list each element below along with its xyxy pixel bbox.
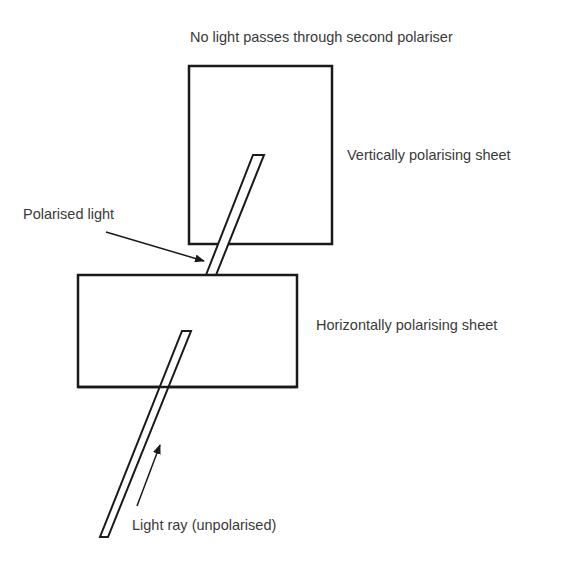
- polarisation-diagram: [0, 0, 578, 570]
- horizontal-sheet-label: Horizontally polarising sheet: [316, 318, 497, 333]
- light-ray-label: Light ray (unpolarised): [132, 518, 276, 533]
- vertical-sheet-label: Vertically polarising sheet: [347, 148, 511, 163]
- polarised-light-ray: [206, 155, 264, 275]
- polarised-light-label: Polarised light: [23, 207, 114, 222]
- top-caption: No light passes through second polariser: [190, 30, 453, 45]
